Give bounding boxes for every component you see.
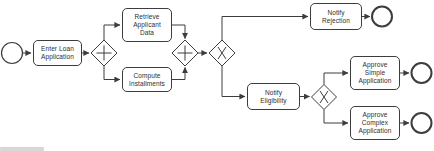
- task-approve-simple-application: Approve Simple Application: [350, 56, 400, 90]
- flow-retrieve-to-parallel-join: [172, 25, 185, 39]
- flow-parallel-split-to-compute: [104, 66, 120, 80]
- parallel-join-gateway: [172, 40, 198, 66]
- task-notify-eligibility: Notify Eligibility: [247, 83, 300, 110]
- task-enter-loan-application: Enter Loan Application: [33, 40, 82, 66]
- end-event-circle-complex: [412, 113, 432, 133]
- task-retrieve-applicant-data: Retrieve Applicant Data: [122, 8, 172, 42]
- flow-exclusive-1-to-notify-rejection: [222, 17, 308, 41]
- end-event-circle-simple: [412, 63, 432, 83]
- flow-exclusive-2-to-approve-simple: [324, 73, 348, 85]
- cropped-caption-fragment: [0, 147, 44, 151]
- exclusive-gateway-2: [312, 85, 337, 110]
- task-compute-installments: Compute Installments: [122, 67, 172, 92]
- task-notify-rejection: Notify Rejection: [310, 3, 362, 30]
- flow-compute-to-parallel-join: [172, 68, 185, 80]
- end-event-circle-rejection: [372, 7, 392, 27]
- parallel-split-gateway: [91, 40, 117, 66]
- flow-exclusive-2-to-approve-complex: [324, 110, 348, 124]
- task-approve-complex-application: Approve Complex Application: [350, 106, 400, 140]
- flow-exclusive-1-to-notify-eligibility: [222, 66, 245, 97]
- exclusive-gateway-1: [209, 40, 235, 66]
- start-event-circle: [2, 43, 23, 64]
- bpmn-diagram: Enter Loan Application Retrieve Applican…: [0, 0, 434, 151]
- flow-parallel-split-to-retrieve: [104, 25, 120, 40]
